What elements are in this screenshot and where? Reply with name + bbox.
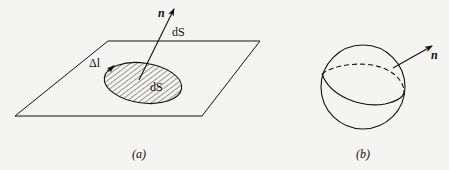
normal-label-a: n bbox=[158, 6, 165, 20]
equator-front bbox=[322, 74, 404, 105]
diagram-canvas: n dS Δl dS (a) n (b) bbox=[0, 0, 449, 170]
equator-back-dashed bbox=[322, 64, 404, 90]
normal-vector-arrow-b bbox=[393, 46, 432, 68]
boundary-label: Δl bbox=[89, 56, 101, 70]
normal-label-b: n bbox=[431, 48, 438, 62]
sphere-outline bbox=[321, 45, 405, 129]
figure-a: n dS Δl dS (a) bbox=[15, 6, 260, 161]
caption-a: (a) bbox=[132, 147, 146, 161]
surface-element-dS bbox=[102, 58, 185, 108]
area-label: dS bbox=[150, 80, 163, 94]
figure-b: n (b) bbox=[321, 45, 438, 161]
caption-b: (b) bbox=[356, 147, 370, 161]
vector-area-label: dS bbox=[172, 25, 185, 39]
